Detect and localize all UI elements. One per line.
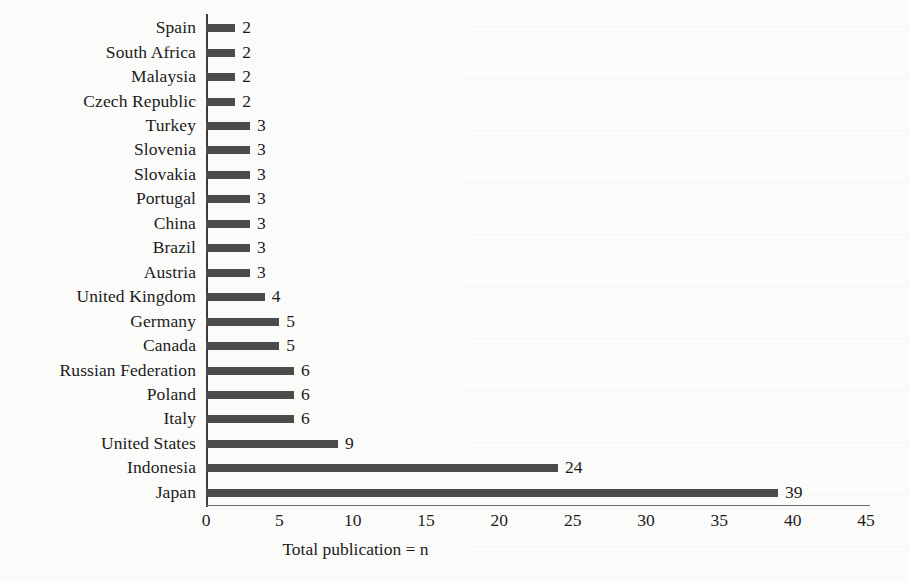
bar-value-label: 5 [286,313,295,331]
bar-value-label: 6 [301,386,310,404]
bar-value-label: 4 [272,288,281,306]
bar-row: Slovenia3 [206,138,866,162]
bar [206,367,294,375]
category-label: Russian Federation [60,362,196,380]
x-tick-label: 35 [711,512,729,530]
bar-row: United Kingdom4 [206,285,866,309]
bar-value-label: 2 [242,19,251,37]
bar-value-label: 2 [242,93,251,111]
x-axis-line [206,505,870,506]
bar [206,464,558,472]
category-label: Portugal [136,191,196,209]
bar-row: Indonesia24 [206,456,866,480]
bar-value-label: 9 [345,435,354,453]
bar-value-label: 3 [257,117,266,135]
bar-row: Brazil3 [206,236,866,260]
bar-row: Portugal3 [206,187,866,211]
category-label: Austria [144,264,196,282]
bar-row: Spain2 [206,16,866,40]
bar [206,293,265,301]
category-label: United States [101,435,196,453]
bar-value-label: 3 [257,264,266,282]
bar-row: South Africa2 [206,40,866,64]
bar-row: Germany5 [206,309,866,333]
bar-value-label: 5 [286,337,295,355]
bar-row: China3 [206,212,866,236]
category-label: United Kingdom [76,288,196,306]
category-label: Japan [156,484,196,502]
category-label: Slovakia [134,166,196,184]
category-label: Germany [130,313,196,331]
category-label: South Africa [106,44,196,62]
bar [206,146,250,154]
bar-value-label: 6 [301,362,310,380]
bar-value-label: 39 [785,484,803,502]
bar-value-label: 3 [257,142,266,160]
bar [206,171,250,179]
x-tick-label: 15 [417,512,435,530]
bar [206,195,250,203]
bar-value-label: 3 [257,191,266,209]
category-label: Brazil [153,240,196,258]
bar-row: Turkey3 [206,114,866,138]
category-label: Malaysia [131,68,196,86]
bar-row: Slovakia3 [206,163,866,187]
bar-row: United States9 [206,432,866,456]
plot-area: Spain2South Africa2Malaysia2Czech Republ… [206,16,866,505]
category-label: Slovenia [134,142,196,160]
category-label: Canada [143,337,196,355]
bar-row: Poland6 [206,383,866,407]
bar-value-label: 3 [257,215,266,233]
x-tick-label: 10 [344,512,362,530]
bar [206,220,250,228]
horizontal-bar-chart: Spain2South Africa2Malaysia2Czech Republ… [0,0,909,582]
bar-value-label: 6 [301,411,310,429]
category-label: Czech Republic [83,93,196,111]
bar-row: Malaysia2 [206,65,866,89]
bar-row: Czech Republic2 [206,89,866,113]
bar [206,489,778,497]
bar [206,73,235,81]
bar-value-label: 24 [565,460,583,478]
bar [206,244,250,252]
x-tick-label: 0 [202,512,211,530]
x-tick-label: 25 [564,512,582,530]
bar-row: Austria3 [206,261,866,285]
bar-value-label: 2 [242,68,251,86]
bar [206,342,279,350]
bar [206,49,235,57]
bar [206,440,338,448]
category-label: Indonesia [127,460,196,478]
bar [206,391,294,399]
bar [206,318,279,326]
bar-row: Canada5 [206,334,866,358]
bar [206,269,250,277]
bar [206,98,235,106]
x-tick-label: 5 [275,512,284,530]
bar-value-label: 3 [257,240,266,258]
bar [206,415,294,423]
bar-value-label: 3 [257,166,266,184]
x-tick-label: 40 [784,512,802,530]
bar-row: Russian Federation6 [206,358,866,382]
bar [206,24,235,32]
bar-row: Japan39 [206,481,866,505]
category-label: Turkey [145,117,196,135]
x-axis-title-text: Total publication = n [282,539,428,559]
category-label: Spain [156,19,196,37]
category-label: Poland [147,386,196,404]
bar-row: Italy6 [206,407,866,431]
category-label: China [154,215,196,233]
x-tick-label: 20 [491,512,509,530]
x-tick-label: 45 [857,512,875,530]
x-axis-title: Total publication = n [0,541,909,559]
x-tick-label: 30 [637,512,655,530]
bar-value-label: 2 [242,44,251,62]
bar [206,122,250,130]
category-label: Italy [163,411,196,429]
